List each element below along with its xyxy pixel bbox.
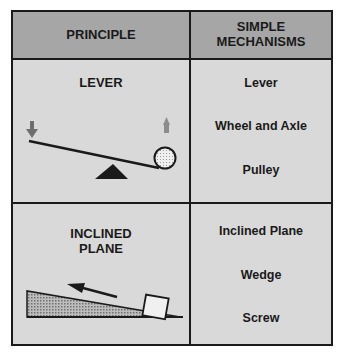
up-arrow-icon: [163, 117, 170, 133]
mechanism-inclined-plane: Inclined Plane: [191, 224, 331, 239]
principles-table: PRINCIPLE SIMPLE MECHANISMS LEVER Lever …: [11, 10, 333, 346]
header-mechanisms-line2: MECHANISMS: [191, 34, 331, 49]
down-arrow-icon: [26, 121, 38, 138]
block: [142, 295, 168, 320]
header-mechanisms-line1: SIMPLE: [191, 19, 331, 34]
left-arrow-icon: [67, 283, 117, 297]
mechanism-lever: Lever: [191, 76, 331, 91]
inclined-plane-illustration: [13, 204, 191, 346]
mechanism-pulley: Pulley: [191, 163, 331, 178]
load-ball: [155, 148, 176, 169]
lever-illustration: [13, 12, 191, 202]
mechanism-wedge: Wedge: [191, 268, 331, 283]
mechanism-wheel-axle: Wheel and Axle: [191, 119, 331, 134]
fulcrum-icon: [95, 164, 128, 179]
header-mechanisms: SIMPLE MECHANISMS: [191, 19, 331, 49]
mechanism-screw: Screw: [191, 311, 331, 326]
lever-beam: [29, 141, 159, 168]
